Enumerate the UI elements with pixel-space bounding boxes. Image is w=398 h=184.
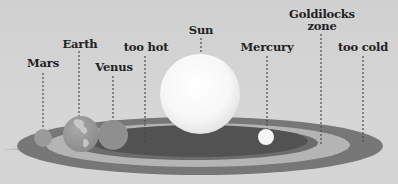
earth-icon [63,116,99,152]
mercury-icon [258,129,274,145]
label-too-cold: too cold [338,41,388,53]
label-venus: Venus [95,61,132,73]
mars-icon [34,129,52,147]
venus-icon [98,120,128,150]
sun-icon [160,54,240,134]
label-mars: Mars [27,57,59,69]
label-earth: Earth [63,38,98,50]
label-mercury: Mercury [241,41,294,53]
label-goldilocks-line2: zone [289,20,355,32]
label-sun: Sun [189,24,213,36]
solar-system-diagram: Mars Earth Venus too hot Sun Mercury Gol… [0,0,398,184]
label-goldilocks-zone: Goldilocks zone [289,8,355,32]
label-too-hot: too hot [124,41,169,53]
